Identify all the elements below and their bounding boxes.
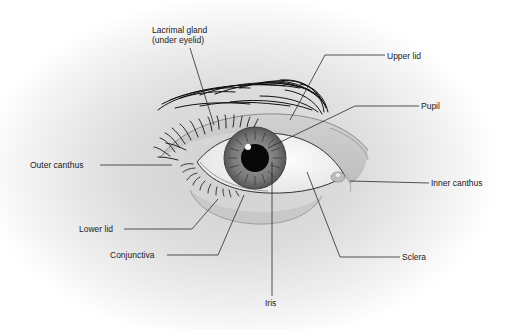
label-iris: Iris <box>265 298 276 308</box>
label-conjunctiva: Conjunctiva <box>110 250 154 260</box>
label-outer-canthus: Outer canthus <box>30 160 83 170</box>
label-lacrimal-gland-line1: Lacrimal gland <box>152 25 207 35</box>
label-inner-canthus: Inner canthus <box>431 178 483 188</box>
label-upper-lid: Upper lid <box>387 51 421 61</box>
label-lacrimal-gland-line2: (under eyelid) <box>152 35 207 45</box>
leader-inner-canthus <box>350 181 429 183</box>
label-sclera: Sclera <box>402 252 426 262</box>
eye-anatomy-diagram: Lacrimal gland (under eyelid) Upper lid … <box>0 0 523 329</box>
leader-lacrimal-gland <box>190 48 214 125</box>
pupil-highlight <box>245 144 251 150</box>
pupil-shape <box>241 144 269 172</box>
label-lower-lid: Lower lid <box>79 224 113 234</box>
label-pupil: Pupil <box>421 101 440 111</box>
label-lacrimal-gland: Lacrimal gland (under eyelid) <box>152 25 207 45</box>
lower-lid-fold <box>190 190 322 224</box>
